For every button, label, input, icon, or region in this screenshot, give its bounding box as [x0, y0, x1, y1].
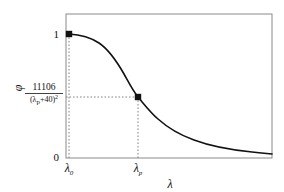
fraction-denominator-sup: 2 [55, 94, 58, 100]
chart-svg: 1 0 φ 11106 (λp+40)2 λ0 λp λ [0, 0, 284, 192]
x-tick-lambda0-sub: 0 [70, 169, 74, 177]
fraction-denominator-post: +40) [40, 95, 56, 104]
x-axis-title: λ [166, 177, 172, 191]
y-tick-label-one: 1 [54, 28, 60, 40]
y-axis-title: φ [11, 84, 25, 91]
chart-figure: 1 0 φ 11106 (λp+40)2 λ0 λp λ [0, 0, 284, 192]
data-point-marker-lambda0 [66, 31, 72, 37]
fraction-numerator: 11106 [32, 82, 55, 92]
data-point-marker-lambdap [135, 94, 141, 100]
x-tick-lambdap-sub: p [138, 169, 143, 177]
y-tick-label-zero: 0 [54, 151, 60, 163]
